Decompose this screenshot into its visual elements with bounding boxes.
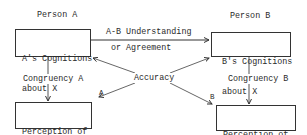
b-cognitions-box: B's Cognitions about X <box>211 32 291 57</box>
b-cognitions-line1: B's Cognitions <box>222 57 290 67</box>
congruency-a-label: Congruency A <box>23 74 83 84</box>
b-cognitions-line2: about X <box>222 87 290 97</box>
person-a-label: Person A <box>37 10 77 20</box>
a-cognitions-box: A's Cognitions about X <box>15 29 91 57</box>
b-perception-line1: Perception of <box>223 130 295 135</box>
accuracy-label: Accuracy <box>134 73 174 83</box>
a-cognitions-line1: A's Cognitions <box>22 54 90 64</box>
understanding-label-line2: or Agreement <box>111 43 171 53</box>
a-cognitions-line2: about X <box>22 84 90 94</box>
understanding-label-line1: A-B Understanding <box>106 27 191 37</box>
person-b-label: Person B <box>230 11 270 21</box>
accuracy-a-tag: A <box>99 88 104 98</box>
accuracy-arrow-to-a-cognitions <box>93 58 135 73</box>
b-perception-box: Perception of A's cognitions <box>216 105 296 131</box>
accuracy-arrow-to-b-cognitions <box>170 58 209 73</box>
congruency-b-label: Congruency B <box>228 74 288 84</box>
accuracy-arrow-to-a-perception <box>99 83 135 97</box>
accuracy-arrow-to-b-perception <box>170 83 212 104</box>
accuracy-b-tag: B <box>210 92 215 102</box>
a-perception-line1: Perception of <box>22 127 91 135</box>
a-perception-box: Perception of B's Cognitions <box>15 102 92 129</box>
